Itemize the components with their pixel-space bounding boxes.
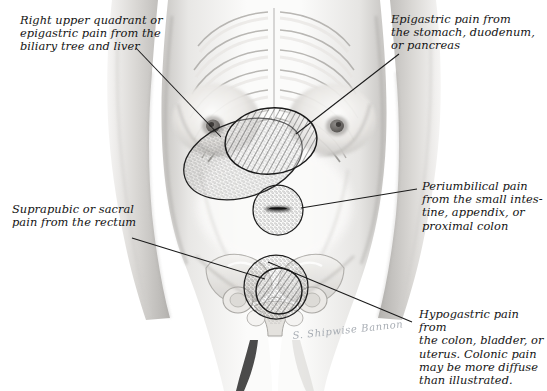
label-right-upper-quadrant: Right upper quadrant or epigastric pain … [20,14,210,54]
label-suprapubic-sacral: Suprapubic or sacral pain from the rectu… [12,203,192,229]
label-hypogastric: Hypogastric pain from the colon, bladder… [419,308,547,387]
medical-illustration-figure: Right upper quadrant or epigastric pain … [0,0,547,391]
region-periumbilical-stippled-circle [253,185,303,235]
right-nipple [326,116,348,136]
label-periumbilical: Periumbilical pain from the small intes-… [422,180,547,233]
label-epigastric: Epigastric pain from the stomach, duoden… [391,13,543,53]
region-suprapubic-hatched-circle [256,268,302,314]
